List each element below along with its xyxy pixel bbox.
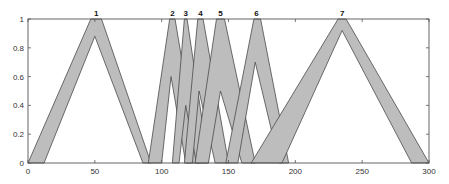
mf-labels: 1234567 [94,9,345,18]
y-tick-label: 1 [20,15,25,24]
x-tick-label: 50 [90,167,99,176]
x-tick-label: 100 [155,167,169,176]
y-tick-label: 0.6 [13,73,25,82]
x-tick-label: 200 [289,167,303,176]
mf-label-5: 5 [218,9,223,18]
mf-label-7: 7 [340,9,345,18]
type2-membership-chart: 050100150200250300 00.20.40.60.81 123456… [0,0,449,184]
x-tick-label: 250 [355,167,369,176]
x-tick-label: 150 [222,167,236,176]
mf-label-1: 1 [94,9,99,18]
x-tick-label: 300 [422,167,436,176]
mf-1-fou [28,19,151,163]
y-tick-label: 0.4 [13,101,25,110]
y-tick-label: 0 [20,159,25,168]
x-tick-label: 0 [26,167,31,176]
mf-label-2: 2 [170,9,175,18]
y-tick-label: 0.2 [13,130,25,139]
mf-label-4: 4 [198,9,203,18]
mf-label-3: 3 [184,9,189,18]
y-tick-label: 0.8 [13,44,25,53]
mf-7-fou [251,19,429,163]
footprint-of-uncertainty-layer [28,19,429,163]
mf-label-6: 6 [254,9,259,18]
